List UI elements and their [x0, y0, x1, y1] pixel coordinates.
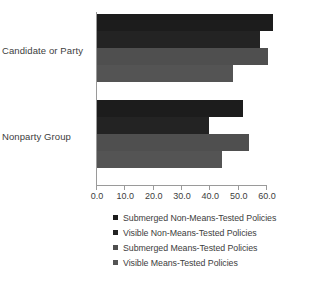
axis-tick-label: 10.0	[117, 191, 135, 201]
legend-swatch-icon	[113, 260, 118, 265]
axis-tick-label: 30.0	[173, 191, 191, 201]
axis-tick	[266, 186, 267, 190]
legend-swatch-icon	[113, 215, 118, 220]
category-label-nonparty-group: Nonparty Group	[2, 131, 98, 142]
axis-tick-label: 20.0	[145, 191, 163, 201]
axis-tick	[96, 186, 97, 190]
legend-swatch-icon	[113, 245, 118, 250]
bar-nonparty-group-submerged-non-means-tested	[97, 100, 243, 117]
axis-tick-label: 0.0	[91, 191, 104, 201]
bar-candidate-or-party-submerged-non-means-tested	[97, 14, 273, 31]
legend-item[interactable]: Visible Means-Tested Policies	[113, 255, 311, 270]
bar-chart: Candidate or Party Nonparty Group 0.010.…	[0, 0, 311, 281]
axis-tick	[181, 186, 182, 190]
legend-item[interactable]: Submerged Means-Tested Policies	[113, 240, 311, 255]
bar-nonparty-group-submerged-means-tested	[97, 134, 249, 151]
legend-item-label: Submerged Means-Tested Policies	[123, 243, 257, 253]
plot-area: Candidate or Party Nonparty Group 0.010.…	[0, 0, 311, 188]
axis-tick-label: 60.0	[258, 191, 276, 201]
axis-tick	[124, 186, 125, 190]
axis-tick	[209, 186, 210, 190]
bar-nonparty-group-visible-non-means-tested	[97, 117, 209, 134]
legend-item[interactable]: Visible Non-Means-Tested Policies	[113, 225, 311, 240]
axis-tick-label: 50.0	[230, 191, 248, 201]
bar-candidate-or-party-visible-means-tested	[97, 65, 233, 82]
legend-item[interactable]: Submerged Non-Means-Tested Policies	[113, 210, 311, 225]
bar-candidate-or-party-submerged-means-tested	[97, 48, 268, 65]
category-axis-line	[96, 12, 97, 186]
axis-tick	[153, 186, 154, 190]
legend-item-label: Submerged Non-Means-Tested Policies	[123, 213, 276, 223]
bar-nonparty-group-visible-means-tested	[97, 151, 222, 168]
legend-swatch-icon	[113, 230, 118, 235]
legend: Submerged Non-Means-Tested Policies Visi…	[113, 210, 311, 270]
axis-tick	[238, 186, 239, 190]
category-label-candidate-or-party: Candidate or Party	[2, 45, 98, 56]
axis-tick-label: 40.0	[202, 191, 220, 201]
bar-candidate-or-party-visible-non-means-tested	[97, 31, 260, 48]
legend-item-label: Visible Non-Means-Tested Policies	[123, 228, 257, 238]
legend-item-label: Visible Means-Tested Policies	[123, 258, 238, 268]
